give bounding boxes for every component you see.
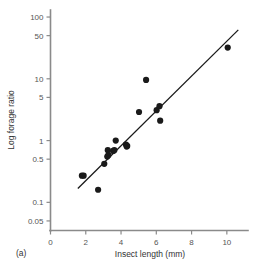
data-point <box>111 147 117 153</box>
data-point <box>157 118 163 124</box>
y-tick-label: 0.5 <box>32 155 44 164</box>
x-tick-label: 2 <box>84 238 89 247</box>
data-point <box>143 77 149 83</box>
y-tick-label: 10 <box>35 75 44 84</box>
data-point <box>113 137 119 143</box>
x-tick-label: 8 <box>189 238 194 247</box>
data-point <box>81 173 87 179</box>
x-axis-ticks: 0246810 <box>48 231 232 247</box>
y-tick-label: 0.05 <box>28 217 44 226</box>
y-tick-label: 1 <box>39 137 44 146</box>
data-point <box>95 187 101 193</box>
panel-label: (a) <box>16 248 27 258</box>
data-point <box>225 45 231 51</box>
data-points <box>79 45 231 193</box>
y-tick-label: 100 <box>30 13 44 22</box>
y-axis-ticks: 0.050.10.5151050100 <box>28 13 51 226</box>
data-point <box>124 143 130 149</box>
data-point <box>156 103 162 109</box>
data-point <box>105 152 111 158</box>
x-tick-label: 10 <box>222 238 231 247</box>
x-tick-label: 6 <box>154 238 159 247</box>
data-point <box>101 161 107 167</box>
data-point <box>136 109 142 115</box>
x-tick-label: 4 <box>119 238 124 247</box>
scatter-chart: 0.050.10.5151050100 0246810 Insect lengt… <box>0 0 255 272</box>
y-axis-title: Log forage ratio <box>6 90 16 150</box>
y-tick-label: 50 <box>35 32 44 41</box>
x-tick-label: 0 <box>48 238 53 247</box>
y-tick-label: 0.1 <box>32 198 44 207</box>
y-tick-label: 5 <box>39 93 44 102</box>
figure-panel: 0.050.10.5151050100 0246810 Insect lengt… <box>0 0 255 272</box>
x-axis-title: Insect length (mm) <box>115 249 186 259</box>
